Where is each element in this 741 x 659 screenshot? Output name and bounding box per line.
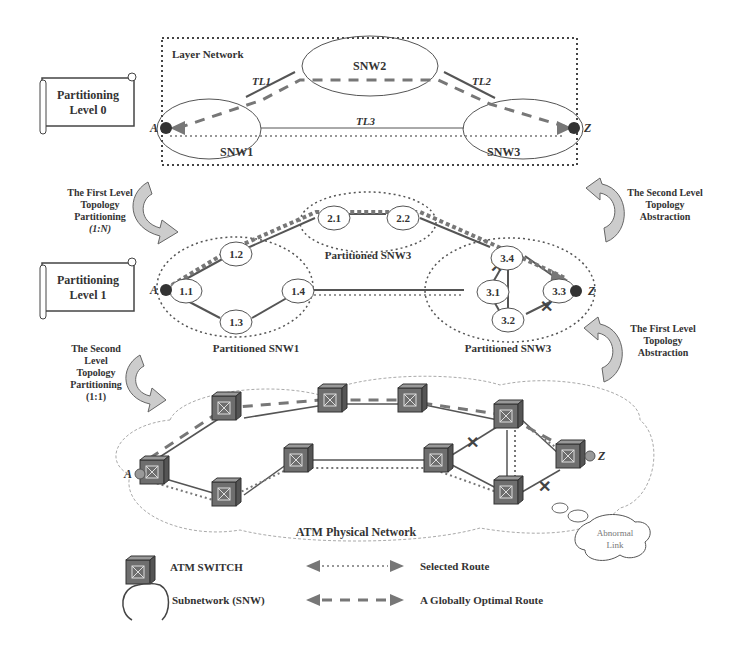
svg-text:2.2: 2.2 [396,212,410,224]
svg-text:Partitioning: Partitioning [70,379,122,390]
atm-switch-icon [424,444,453,472]
atm-switch-icon [284,444,313,472]
atm-switch-icon [494,476,523,504]
svg-text:3.4: 3.4 [500,252,514,264]
annotation-first-abstraction: The First Level Topology Abstraction [630,323,696,358]
legend-optimal-route: A Globally Optimal Route [420,594,543,606]
atm-switch-icon [318,384,347,412]
endpoint-z-l0: Z [583,121,592,135]
layer-network-title: Layer Network [172,48,244,60]
svg-text:The Second: The Second [71,343,121,354]
curved-arrow-icon [126,355,166,412]
legend-atm-switch: ATM SWITCH [170,561,243,573]
annotation-second-partition: The Second Level Topology Partitioning (… [70,343,122,403]
svg-text:(1:N): (1:N) [89,223,111,235]
svg-text:A: A [123,467,132,481]
layer-network-box: Layer Network SNW2 SNW1 SNW3 TL1 TL2 TL3… [149,36,592,165]
curved-arrow-icon [586,178,624,242]
svg-text:The First Level: The First Level [67,187,133,198]
svg-text:Topology: Topology [645,199,684,210]
atm-switch-icon [494,400,523,428]
svg-text:Z: Z [597,449,606,463]
snw1-label: SNW1 [220,145,253,159]
arrow-left-icon [306,560,320,572]
atm-switch-legend-icon [126,556,155,584]
svg-text:3.3: 3.3 [552,285,566,297]
level1-network: ✕ ✕ 1.1 1.2 1.3 1.4 2.1 2.2 3.1 3.2 3.3 … [149,192,596,354]
svg-text:Z: Z [587,284,596,298]
svg-text:(1:1): (1:1) [86,391,106,403]
svg-text:Partitioning: Partitioning [57,273,119,287]
atm-switch-icon [212,478,241,506]
svg-text:Link: Link [607,540,624,550]
svg-text:3.1: 3.1 [486,286,500,298]
svg-text:The Second Level: The Second Level [627,187,703,198]
snw2-label: SNW2 [353,59,386,73]
legend-subnetwork: Subnetwork (SNW) [172,594,265,607]
subnetwork-legend-icon [123,585,169,620]
svg-text:✕: ✕ [466,434,479,451]
svg-text:Topology: Topology [643,335,682,346]
atm-switch-icon [556,440,585,468]
svg-text:The First Level: The First Level [630,323,696,334]
svg-text:Abstraction: Abstraction [638,347,689,358]
svg-text:Level 0: Level 0 [70,103,107,117]
endpoint-a-l0: A [149,121,158,135]
svg-text:1.3: 1.3 [229,316,243,328]
scroll-level1: Partitioning Level 1 [40,258,136,319]
arrow-right-icon [390,594,404,606]
svg-text:3.2: 3.2 [501,314,515,326]
partitioned-snw2-label: Partitioned SNW3 [325,249,412,261]
svg-text:Level 1: Level 1 [70,288,107,302]
atm-switch-icon [140,456,169,484]
svg-text:A: A [149,283,158,297]
legend-selected-route: Selected Route [420,560,489,572]
physical-network-title: ATM Physical Network [296,525,417,539]
partitioned-snw1-label: Partitioned SNW1 [213,342,299,354]
svg-text:1.4: 1.4 [291,285,305,297]
svg-text:Topology: Topology [76,367,115,378]
arrow-right-icon [390,560,404,572]
atm-physical-network: ✕ ✕ A Z ATM Physical Network Abnormal Li… [116,376,654,560]
svg-text:1.1: 1.1 [179,285,193,297]
snw3-label: SNW3 [487,145,520,159]
network-partitioning-diagram: Layer Network SNW2 SNW1 SNW3 TL1 TL2 TL3… [0,0,741,659]
svg-text:Abnormal: Abnormal [597,528,634,538]
arrow-left-icon [306,594,320,606]
annotation-second-abstraction: The Second Level Topology Abstraction [627,187,703,222]
svg-text:Level: Level [84,355,108,366]
scroll-level0: Partitioning Level 0 [40,73,136,134]
svg-text:✕: ✕ [538,478,551,495]
curved-arrow-icon [133,182,178,244]
partitioned-snw3-label: Partitioned SNW3 [465,342,552,354]
svg-text:Topology: Topology [80,199,119,210]
tl3-label: TL3 [356,115,375,127]
svg-text:Partitioning: Partitioning [74,211,126,222]
svg-text:2.1: 2.1 [327,212,341,224]
atm-switch-icon [398,384,427,412]
tl1-label: TL1 [252,75,271,87]
legend: ATM SWITCH Subnetwork (SNW) Selected Rou… [123,556,543,620]
svg-text:Abstraction: Abstraction [640,211,691,222]
annotation-first-partition: The First Level Topology Partitioning (1… [67,187,133,235]
svg-text:Partitioning: Partitioning [57,88,119,102]
tl2-label: TL2 [472,75,491,87]
atm-switch-icon [212,392,241,420]
curved-arrow-icon [584,317,622,382]
svg-text:1.2: 1.2 [229,248,243,260]
